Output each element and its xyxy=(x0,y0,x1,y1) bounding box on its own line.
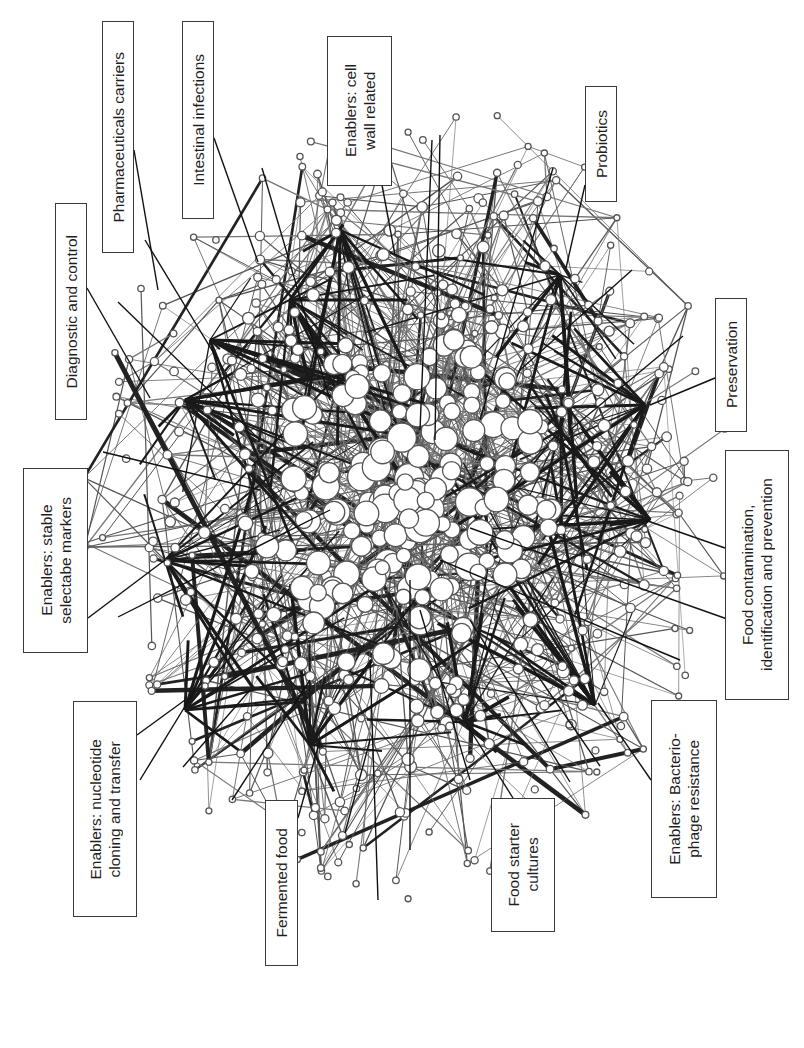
callout-pharmaceuticals-carriers: Pharmaceuticals carriers xyxy=(102,21,134,253)
callout-label-text: Intestinal infections xyxy=(189,54,208,186)
callout-label-text: Food contamination, identification and p… xyxy=(738,478,776,671)
callout-fermented-food: Fermented food xyxy=(265,800,298,966)
callout-bacteriophage-resistance: Enablers: Bacterio- phage resistance xyxy=(651,700,717,898)
callout-label-text: Enablers: Bacterio- phage resistance xyxy=(665,733,703,865)
callout-food-starter-cultures: Food starter cultures xyxy=(491,798,555,932)
callout-label-text: Food starter cultures xyxy=(504,823,542,907)
callout-intestinal-infections: Intestinal infections xyxy=(182,21,214,219)
callout-label-text: Pharmaceuticals carriers xyxy=(109,52,128,223)
callout-food-contamination: Food contamination, identification and p… xyxy=(725,450,789,700)
callout-label-text: Fermented food xyxy=(272,828,291,937)
callout-label-text: Enablers: stable selectabe markers xyxy=(37,497,75,624)
network-figure: Pharmaceuticals carriersIntestinal infec… xyxy=(0,0,804,1048)
callout-label-text: Preservation xyxy=(722,321,741,408)
callout-cell-wall: Enablers: cell wall related xyxy=(327,36,392,186)
callout-diagnostic-control: Diagnostic and control xyxy=(55,203,87,420)
callout-nucleotide-cloning: Enablers: nucleotide cloning and transfe… xyxy=(73,701,137,917)
callout-probiotics: Probiotics xyxy=(585,86,617,202)
callout-label-text: Diagnostic and control xyxy=(62,235,81,388)
callout-label-text: Enablers: cell wall related xyxy=(341,64,379,157)
callout-label-text: Probiotics xyxy=(592,110,611,178)
callout-stable-markers: Enablers: stable selectabe markers xyxy=(23,468,88,653)
callout-label-text: Enablers: nucleotide cloning and transfe… xyxy=(86,739,124,879)
callout-preservation: Preservation xyxy=(715,298,747,432)
